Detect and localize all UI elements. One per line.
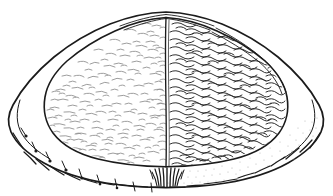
bivalve-shell-drawing [0, 0, 333, 196]
shell-body-group [9, 12, 324, 192]
illustration-figure [0, 0, 333, 196]
